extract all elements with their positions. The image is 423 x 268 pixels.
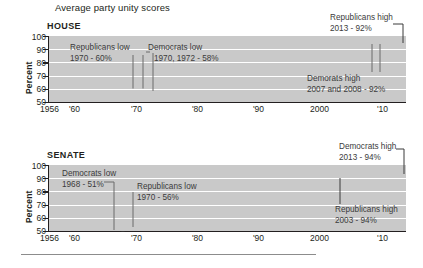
chart-figure: Average party unity scores HOUSE Percent…: [0, 0, 423, 268]
house-dem-low-title: Democrats low: [148, 43, 219, 54]
house-ytickmark-100: [43, 36, 48, 37]
senate-ytickmark-100: [43, 165, 48, 166]
senate-xtick-1990: '90: [253, 233, 264, 243]
house-xtick-2010: '10: [377, 104, 388, 114]
house-rep-high-value: 2013 - 92%: [330, 24, 393, 35]
senate-dem-high-title: Democrats high: [339, 142, 396, 153]
house-dem-high-value: 2007 and 2008 - 92%: [307, 85, 385, 96]
senate-ytickmark-60: [43, 218, 48, 219]
house-ytickmark-60: [43, 89, 48, 90]
house-xtick-1970: '70: [131, 104, 142, 114]
house-rep-low-value: 1970 - 60%: [70, 54, 130, 65]
senate-xtick-1960: '60: [69, 233, 80, 243]
house-ytickmark-90: [43, 49, 48, 50]
footer-divider: [21, 254, 316, 255]
senate-rep-high-value: 2003 - 94%: [335, 216, 398, 227]
house-xtick-1980: '80: [192, 104, 203, 114]
senate-ytickmark-70: [43, 205, 48, 206]
house-rep-high-annotation: Republicans high 2013 - 92%: [330, 13, 393, 34]
house-dem-low-annotation: Democrats low 1970, 1972 - 58%: [148, 43, 219, 64]
house-dem-high-annotation: Demorats high 2007 and 2008 - 92%: [307, 74, 385, 95]
house-dem-high-title: Demorats high: [307, 74, 385, 85]
house-xtick-1990: '90: [253, 104, 264, 114]
senate-xtick-2010: '10: [377, 233, 388, 243]
house-xtick-1956: 1956: [40, 104, 59, 114]
house-xtick-2000: 2000: [310, 104, 329, 114]
house-x-axis-line: [48, 102, 406, 103]
house-dem-low-value: 1970, 1972 - 58%: [154, 54, 219, 65]
senate-rep-low-annotation: Republicans low 1970 - 56%: [137, 182, 197, 203]
house-panel-label: HOUSE: [47, 21, 81, 31]
senate-x-axis-line: [48, 231, 406, 232]
senate-rep-high-title: Republicans high: [335, 205, 398, 216]
house-rep-high-title: Republicans high: [330, 13, 393, 24]
senate-dem-low-title: Democrats low: [62, 169, 116, 180]
house-rep-low-title: Republicans low: [70, 43, 130, 54]
senate-dem-high-annotation: Democrats high 2013 - 94%: [339, 142, 396, 163]
house-ytickmark-70: [43, 76, 48, 77]
senate-rep-low-value: 1970 - 56%: [137, 193, 197, 204]
senate-dem-low-annotation: Democrats low 1968 - 51%: [62, 169, 116, 190]
senate-xtick-2000: 2000: [310, 233, 329, 243]
senate-gridline-80: [49, 191, 406, 192]
senate-ytickmark-90: [43, 178, 48, 179]
senate-ytickmark-80: [43, 191, 48, 192]
senate-panel-label: SENATE: [47, 150, 85, 160]
senate-dem-high-value: 2013 - 94%: [339, 153, 396, 164]
house-xtick-1960: '60: [69, 104, 80, 114]
chart-title: Average party unity scores: [55, 2, 170, 13]
senate-rep-high-annotation: Republicans high 2003 - 94%: [335, 205, 398, 226]
senate-xtick-1980: '80: [192, 233, 203, 243]
senate-xtick-1970: '70: [131, 233, 142, 243]
senate-xtick-1956: 1956: [40, 233, 59, 243]
senate-dem-low-value: 1968 - 51%: [62, 180, 116, 191]
house-rep-low-annotation: Republicans low 1970 - 60%: [70, 43, 130, 64]
house-ytickmark-80: [43, 62, 48, 63]
senate-rep-low-title: Republicans low: [137, 182, 197, 193]
